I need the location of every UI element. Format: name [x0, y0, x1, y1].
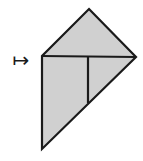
horizontal-fold-line: [42, 56, 136, 57]
folded-shape-figure: [0, 0, 143, 161]
figure-canvas: ↦: [0, 0, 143, 161]
maps-to-arrow-icon: ↦: [6, 46, 36, 74]
